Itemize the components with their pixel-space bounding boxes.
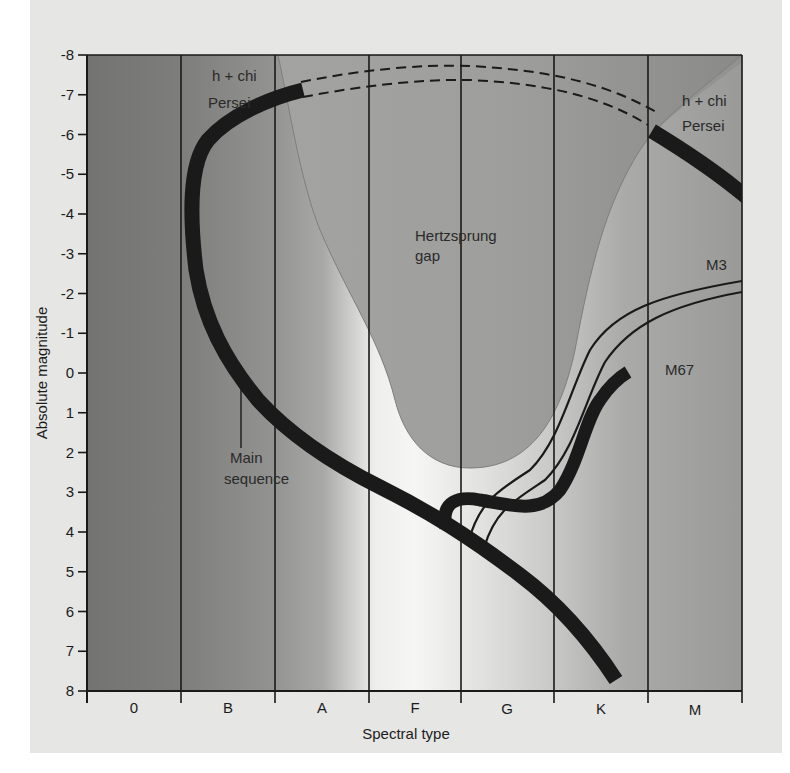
y-tick: -2 (61, 285, 74, 302)
main-sequence-label-2: sequence (224, 470, 289, 487)
y-tick: 8 (66, 682, 74, 699)
y-tick: -3 (61, 245, 74, 262)
y-tick: 0 (66, 364, 74, 381)
y-tick: -4 (61, 205, 74, 222)
y-tick-labels: -8 -7 -6 -5 -4 -3 -2 -1 0 1 2 3 4 5 6 7 … (61, 46, 74, 699)
hchi-right-label-1: h + chi (682, 92, 727, 109)
hchi-left-label-1: h + chi (212, 67, 257, 84)
gap-label-1: Hertzsprung (415, 227, 497, 244)
y-tick: 2 (66, 444, 74, 461)
y-tick: 7 (66, 642, 74, 659)
x-tick: M (689, 701, 702, 718)
y-tick: -1 (61, 324, 74, 341)
x-tick: B (223, 699, 233, 716)
y-tick: -5 (61, 165, 74, 182)
x-axis-title: Spectral type (362, 725, 450, 742)
x-tick: G (501, 700, 513, 717)
main-sequence-label-1: Main (230, 449, 263, 466)
y-tick: -7 (61, 86, 74, 103)
y-tick: -6 (61, 126, 74, 143)
x-tick: K (596, 700, 606, 717)
y-tick: 3 (66, 483, 74, 500)
m3-label: M3 (706, 256, 727, 273)
m67-label: M67 (665, 361, 694, 378)
gap-label-2: gap (415, 247, 440, 264)
hchi-right-label-2: Persei (682, 117, 725, 134)
x-tick: 0 (130, 699, 138, 716)
y-tick: 5 (66, 563, 74, 580)
x-tick: F (410, 699, 419, 716)
hchi-left-label-2: Persei (208, 94, 251, 111)
y-tick: 4 (66, 523, 74, 540)
x-tick: A (317, 699, 327, 716)
hr-diagram: -8 -7 -6 -5 -4 -3 -2 -1 0 1 2 3 4 5 6 7 … (0, 0, 790, 773)
y-axis-title: Absolute magnitude (33, 307, 50, 440)
y-tick: 6 (66, 603, 74, 620)
x-tick-labels: 0 B A F G K M (130, 699, 701, 718)
y-tick-marks (78, 55, 87, 691)
y-tick: -8 (61, 46, 74, 63)
y-tick: 1 (66, 404, 74, 421)
